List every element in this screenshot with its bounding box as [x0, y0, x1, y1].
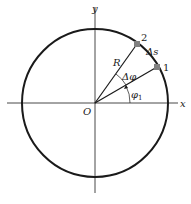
radius-label: R — [112, 57, 121, 68]
circular-motion-diagram: y x O R 2 1 Δs Δφ φ1 — [0, 0, 191, 204]
arc-length-label: Δs — [145, 46, 158, 57]
phi1-subscript: 1 — [138, 94, 142, 102]
origin-label: O — [83, 106, 91, 117]
x-axis-label: x — [180, 98, 186, 109]
point-1-marker — [154, 64, 160, 70]
delta-phi-label: Δφ — [121, 71, 136, 82]
point-1-label: 1 — [163, 62, 169, 73]
y-axis-label: y — [91, 3, 98, 14]
phi1-symbol: φ — [131, 89, 138, 100]
phi1-arc — [126, 86, 130, 103]
point-2-marker — [134, 41, 140, 47]
phi1-label: φ1 — [131, 89, 142, 102]
point-2-label: 2 — [141, 32, 147, 43]
